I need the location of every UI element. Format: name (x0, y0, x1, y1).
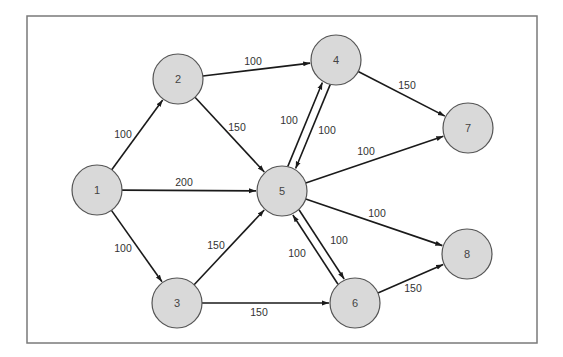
edge-label-4-to-7: 150 (398, 79, 416, 91)
edge-2-to-5 (195, 97, 264, 172)
node-label: 1 (94, 184, 100, 196)
node-label: 4 (333, 54, 339, 66)
edge-1-to-5 (122, 190, 256, 191)
node-4: 4 (311, 35, 361, 85)
edge-label-6-to-8: 150 (404, 282, 422, 294)
node-5: 5 (257, 166, 307, 216)
edge-label-1-to-3: 100 (114, 242, 132, 254)
edge-label-4-to-5: 100 (280, 114, 298, 126)
edge-label-5-to-7: 100 (357, 145, 375, 157)
node-label: 3 (174, 297, 180, 309)
node-label: 2 (175, 73, 181, 85)
node-1: 1 (72, 165, 122, 215)
network-diagram: 1002001001001501501501001001501001001001… (0, 0, 563, 357)
edge-label-3-to-6: 150 (250, 306, 268, 318)
edge-label-5-to-8: 100 (368, 207, 386, 219)
edge-label-5-to-6: 100 (288, 247, 306, 259)
edge-5-to-7 (306, 136, 444, 183)
node-7: 7 (443, 103, 493, 153)
edge-3-to-5 (194, 210, 264, 285)
edge-label-5-to-4: 100 (318, 124, 336, 136)
edge-label-3-to-5: 150 (207, 239, 225, 251)
node-label: 6 (352, 297, 358, 309)
node-3: 3 (152, 278, 202, 328)
node-2: 2 (153, 54, 203, 104)
node-label: 8 (464, 248, 470, 260)
edge-label-1-to-5: 200 (175, 176, 193, 188)
node-label: 5 (279, 185, 285, 197)
edge-label-2-to-4: 100 (244, 55, 262, 67)
nodes-layer: 12345678 (72, 35, 493, 328)
edge-label-6-to-5: 100 (330, 234, 348, 246)
node-8: 8 (442, 229, 492, 279)
edge-label-1-to-2: 100 (114, 128, 132, 140)
node-label: 7 (465, 122, 471, 134)
node-6: 6 (330, 278, 380, 328)
edge-label-2-to-5: 150 (228, 121, 246, 133)
